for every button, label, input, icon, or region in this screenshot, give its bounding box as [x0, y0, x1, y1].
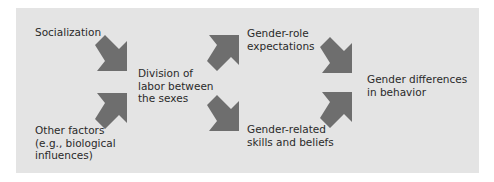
node-line: skills and beliefs	[247, 136, 334, 149]
node-gender-differences: Gender differences in behavior	[367, 73, 467, 98]
arrow-down-right-icon	[207, 95, 243, 131]
node-division-of-labor: Division of labor between the sexes	[138, 67, 214, 105]
arrow-up-right-icon	[207, 35, 243, 71]
node-line: influences)	[35, 149, 116, 162]
node-line: in behavior	[367, 86, 467, 99]
node-line: Gender differences	[367, 73, 467, 86]
arrow-up-right-icon	[320, 92, 356, 128]
node-socialization: Socialization	[35, 26, 101, 39]
node-gender-role-expectations: Gender-role expectations	[247, 27, 315, 52]
node-line: the sexes	[138, 92, 214, 105]
arrow-up-right-icon	[95, 93, 131, 129]
node-line: Gender-role	[247, 27, 315, 40]
node-line: Socialization	[35, 26, 101, 39]
node-line: (e.g., biological	[35, 137, 116, 150]
arrow-down-right-icon	[320, 37, 356, 73]
node-line: labor between	[138, 80, 214, 93]
node-line: expectations	[247, 40, 315, 53]
node-line: Division of	[138, 67, 214, 80]
node-other-factors: Other factors (e.g., biological influenc…	[35, 124, 116, 162]
arrow-down-right-icon	[95, 35, 131, 71]
